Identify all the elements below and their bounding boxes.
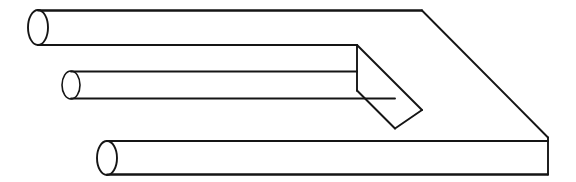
illusion-figure bbox=[0, 0, 576, 182]
bottom-prong-face bbox=[107, 141, 548, 175]
impossible-trident-drawing bbox=[0, 0, 576, 182]
middle-prong-face bbox=[71, 72, 395, 99]
top-prong-face bbox=[38, 11, 422, 46]
